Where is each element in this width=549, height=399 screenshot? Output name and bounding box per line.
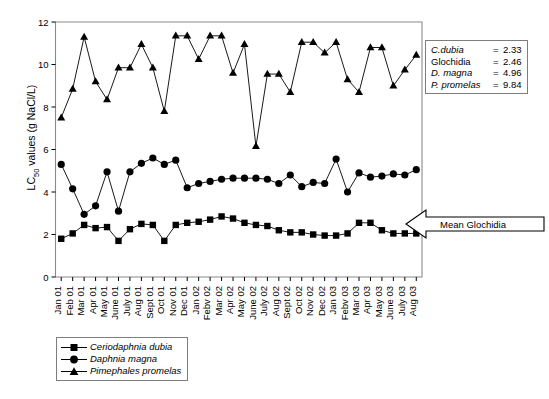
data-point-triangle (183, 32, 191, 39)
data-point-circle (81, 211, 88, 218)
legend-label: Ceriodaphnia dubia (90, 341, 172, 353)
data-point-triangle (332, 38, 340, 45)
data-point-square (184, 220, 190, 226)
data-point-circle (92, 202, 99, 209)
y-tick-label: 0 (43, 272, 48, 283)
legend-marker-triangle (61, 366, 87, 377)
data-point-triangle (137, 40, 145, 47)
data-point-triangle (263, 70, 271, 77)
stats-value: 9.84 (503, 79, 522, 91)
data-point-triangle (412, 51, 420, 58)
legend-marker-circle (61, 354, 87, 365)
data-point-triangle (252, 142, 260, 149)
data-point-square (333, 232, 339, 238)
x-tick-label: Jan 02 (190, 286, 201, 315)
x-tick-label: Sept 01 (144, 286, 155, 319)
stats-equals: = (493, 56, 503, 68)
legend-label: Daphnia magna (90, 353, 157, 365)
x-tick-label: May 03 (373, 286, 384, 317)
x-tick-label: Jan 01 (52, 286, 63, 315)
data-point-triangle (80, 33, 88, 40)
data-point-circle (161, 161, 168, 168)
stats-equals: = (493, 44, 503, 56)
x-tick-label: Dec 01 (178, 286, 189, 316)
y-tick-label: 6 (43, 144, 48, 155)
data-point-circle (58, 161, 65, 168)
data-point-square (92, 225, 98, 231)
data-point-triangle (275, 70, 283, 77)
stats-box: C.dubia = 2.33 Glochidia = 2.46 D. magna… (425, 40, 528, 94)
series-triangle (57, 32, 420, 150)
data-point-square (115, 238, 121, 244)
data-point-square (310, 231, 316, 237)
stats-equals: = (493, 79, 503, 91)
data-point-square (299, 229, 305, 235)
data-point-square (195, 219, 201, 225)
legend-item: Pimephales promelas (61, 365, 181, 377)
data-point-square (150, 222, 156, 228)
data-point-circle (413, 166, 420, 173)
data-point-square (173, 222, 179, 228)
x-tick-label: Oct 02 (293, 286, 304, 314)
x-tick-label: Mar 02 (213, 286, 224, 316)
data-point-triangle (69, 85, 77, 92)
stats-value: 4.96 (503, 67, 522, 79)
data-point-triangle (206, 32, 214, 39)
data-point-triangle (103, 95, 111, 102)
stats-value: 2.46 (503, 56, 522, 68)
data-point-triangle (114, 63, 122, 70)
data-point-circle (69, 185, 76, 192)
data-point-square (367, 220, 373, 226)
data-point-square (161, 238, 167, 244)
x-tick-label: May 01 (98, 286, 109, 317)
data-point-square (207, 216, 213, 222)
data-point-circle (264, 176, 271, 183)
x-tick-label: June 01 (109, 286, 120, 320)
data-point-circle (401, 171, 408, 178)
data-point-square (276, 227, 282, 233)
x-tick-label: Apr 02 (224, 286, 235, 314)
data-point-circle (310, 179, 317, 186)
x-tick-label: Sept 02 (281, 286, 292, 319)
callout-label: Mean Glochidia (440, 219, 507, 230)
x-tick-label: June 03 (384, 286, 395, 320)
data-point-circle (229, 175, 236, 182)
data-point-circle (333, 155, 340, 162)
data-point-square (81, 222, 87, 228)
data-point-circle (367, 174, 374, 181)
stats-label: D. magna (431, 67, 493, 79)
data-point-triangle (160, 107, 168, 114)
x-tick-label: Nov 01 (167, 286, 178, 316)
data-point-square (390, 230, 396, 236)
data-point-circle (390, 170, 397, 177)
stats-label: Glochidia (431, 56, 493, 68)
data-point-triangle (366, 43, 374, 50)
data-point-circle (115, 208, 122, 215)
data-point-square (58, 236, 64, 242)
chart-legend: Ceriodaphnia dubia Daphnia magna Pimepha… (56, 337, 188, 381)
stats-row: C.dubia = 2.33 (431, 44, 522, 56)
data-point-triangle (57, 113, 65, 120)
series-circle (58, 154, 420, 218)
series-line (61, 158, 416, 214)
data-point-triangle (172, 32, 180, 39)
data-point-square (127, 226, 133, 232)
data-point-square (264, 223, 270, 229)
data-point-circle (344, 188, 351, 195)
legend-label: Pimephales promelas (90, 365, 181, 377)
stats-row: D. magna = 4.96 (431, 67, 522, 79)
data-point-circle (149, 154, 156, 161)
x-tick-label: Nov 02 (304, 286, 315, 316)
stats-label: C.dubia (431, 44, 493, 56)
series-line (61, 216, 416, 240)
data-point-square (138, 221, 144, 227)
x-tick-label: Mar 03 (350, 286, 361, 316)
stats-equals: = (493, 67, 503, 79)
x-tick-label: Oct 01 (155, 286, 166, 314)
stats-label: P. promelas (431, 79, 493, 91)
data-point-triangle (286, 88, 294, 95)
x-tick-label: Aug 03 (407, 286, 418, 316)
data-point-triangle (240, 40, 248, 47)
data-point-circle (195, 180, 202, 187)
data-point-square (104, 224, 110, 230)
